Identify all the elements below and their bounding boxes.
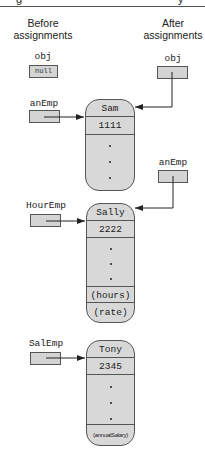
arrow-obj-to-sam (135, 72, 172, 107)
arrow-anEmp-to-sally (135, 176, 173, 208)
reference-arrows (0, 0, 205, 463)
